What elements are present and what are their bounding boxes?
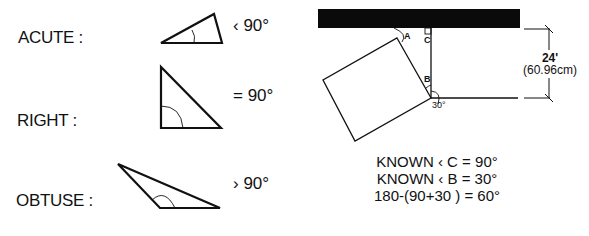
angle-a-label: A <box>404 31 411 41</box>
measurement-metric: (60.96cm) <box>519 64 581 77</box>
known-list: KNOWN ‹ C = 90° KNOWN ‹ B = 30° 180-(90+… <box>352 153 522 204</box>
known-b: KNOWN ‹ B = 30° <box>352 170 522 187</box>
right-label: RIGHT : <box>17 111 77 131</box>
right-relation: = 90° <box>233 86 273 106</box>
angle-c-label: C <box>424 35 431 45</box>
wall-bar <box>318 9 520 28</box>
angle-b-label: B <box>424 74 431 84</box>
rotated-rectangle <box>323 38 431 141</box>
angle-30-label: 30° <box>432 100 446 110</box>
acute-triangle <box>161 14 222 43</box>
known-c: KNOWN ‹ C = 90° <box>352 153 522 170</box>
obtuse-triangle <box>118 164 220 208</box>
obtuse-label: OBTUSE : <box>16 191 93 211</box>
obtuse-relation: › 90° <box>233 174 269 194</box>
calculation: 180-(90+30 ) = 60° <box>352 187 522 204</box>
right-triangle <box>161 67 221 128</box>
acute-label: ACUTE : <box>18 28 83 48</box>
acute-relation: ‹ 90° <box>233 16 269 36</box>
